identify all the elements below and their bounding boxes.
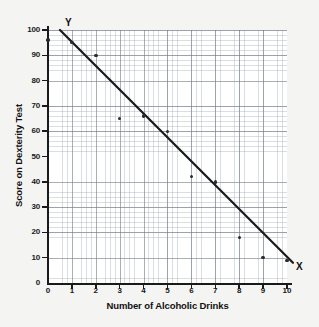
y-tick-mark <box>42 156 48 158</box>
data-point <box>46 38 49 41</box>
y-tick-label: 90 <box>16 51 40 59</box>
x-tick-label: 5 <box>160 287 176 295</box>
y-tick-mark <box>42 130 48 132</box>
y-tick-label: 100 <box>16 26 40 34</box>
y-axis-title: Score on Dexterity Test <box>13 66 24 246</box>
y-tick-mark <box>42 29 48 31</box>
x-axis-title: Number of Alcoholic Drinks <box>48 300 287 311</box>
y-tick-mark <box>42 232 48 234</box>
x-tick-label: 7 <box>207 287 223 295</box>
data-point <box>94 54 97 57</box>
data-point <box>214 180 217 183</box>
y-tick-mark <box>42 55 48 57</box>
x-axis-line <box>47 283 292 285</box>
x-tick-label: 1 <box>64 287 80 295</box>
data-point <box>70 41 73 44</box>
y-tick-label: 0 <box>16 279 40 287</box>
y-tick-mark <box>42 181 48 183</box>
x-tick-label: 10 <box>279 287 295 295</box>
major-gridlines <box>48 30 287 283</box>
x-tick-label: 4 <box>136 287 152 295</box>
data-point <box>285 259 288 262</box>
x-tick-label: 6 <box>183 287 199 295</box>
x-tick-label: 2 <box>88 287 104 295</box>
x-tick-label: 9 <box>255 287 271 295</box>
x-tick-label: 8 <box>231 287 247 295</box>
plot-area <box>48 30 287 283</box>
data-point <box>142 114 145 117</box>
line-label-y: Y <box>65 18 72 28</box>
y-tick-mark <box>42 105 48 107</box>
y-tick-label: 10 <box>16 254 40 262</box>
y-tick-mark <box>42 206 48 208</box>
data-point <box>166 130 169 133</box>
x-tick-label: 3 <box>112 287 128 295</box>
data-point <box>238 236 241 239</box>
y-tick-mark <box>42 257 48 259</box>
line-label-x: X <box>296 262 303 272</box>
y-tick-mark <box>42 80 48 82</box>
x-tick-label: 0 <box>40 287 56 295</box>
chart-figure: 0102030405060708090100 012345678910 Numb… <box>0 0 319 327</box>
